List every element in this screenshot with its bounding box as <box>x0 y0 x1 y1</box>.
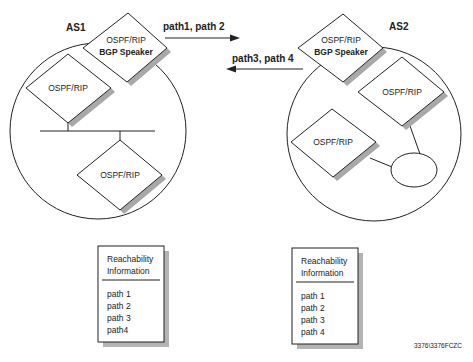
as2-router-2: OSPF/RIP <box>291 109 380 181</box>
table-title-line1: Reachability <box>107 254 154 264</box>
router-label: OSPF/RIP <box>48 83 88 93</box>
table-title-line2: Information <box>107 266 150 276</box>
as1-router-2: OSPF/RIP <box>77 140 166 214</box>
as1-bgp-speaker-router: OSPF/RIP BGP Speaker <box>83 13 171 86</box>
arrow-to-as2-head <box>230 35 240 42</box>
as2-router-1: OSPF/RIP <box>358 57 448 130</box>
as1-reachability-table: Reachability Information path 1 path 2 p… <box>98 246 169 347</box>
as1-label: AS1 <box>66 22 86 33</box>
figure-id: 3376\3376FCZC <box>414 342 462 349</box>
table-path: path 2 <box>107 301 131 311</box>
table-title-line1: Reachability <box>301 256 348 266</box>
router-role-label: BGP Speaker <box>99 47 153 57</box>
router-label: OSPF/RIP <box>100 170 140 180</box>
table-path: path 3 <box>301 315 325 325</box>
as2-reachability-table: Reachability Information path 1 path 2 p… <box>292 248 363 349</box>
router-role-label: BGP Speaker <box>314 47 368 57</box>
as2-bgp-speaker-router: OSPF/RIP BGP Speaker <box>298 14 387 86</box>
table-path: path 1 <box>107 289 131 299</box>
table-path: path 1 <box>301 291 325 301</box>
router-label: OSPF/RIP <box>321 35 361 45</box>
table-path: path 2 <box>301 303 325 313</box>
as2-link-2 <box>370 158 392 167</box>
arrow-to-as2-label: path1, path 2 <box>163 21 225 32</box>
table-path: path4 <box>107 325 129 335</box>
router-label: OSPF/RIP <box>313 137 353 147</box>
as2-link-1 <box>410 126 420 154</box>
bgp-diagram: AS1 OSPF/RIP BGP Speaker OSPF/RIP OSPF/R… <box>0 0 473 362</box>
table-path: path 3 <box>107 313 131 323</box>
router-label: OSPF/RIP <box>382 87 422 97</box>
table-title-line2: Information <box>301 268 344 278</box>
as2-network-ellipse <box>391 153 437 187</box>
router-label: OSPF/RIP <box>106 35 146 45</box>
arrow-to-as1-head <box>226 66 236 73</box>
as2-group: AS2 OSPF/RIP BGP Speaker OSPF/RIP OSPF/R… <box>287 14 461 221</box>
as1-group: AS1 OSPF/RIP BGP Speaker OSPF/RIP OSPF/R… <box>10 13 186 219</box>
advertisement-arrows: path1, path 2 path3, path 4 <box>163 21 303 73</box>
arrow-to-as1-label: path3, path 4 <box>232 53 294 64</box>
table-path: path 4 <box>301 327 325 337</box>
as2-label: AS2 <box>389 21 409 32</box>
